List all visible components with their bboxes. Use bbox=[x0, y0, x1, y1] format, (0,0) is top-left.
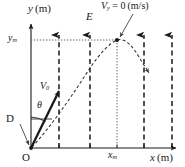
field-arrow-group bbox=[59, 35, 172, 148]
y-max-tick-subscript: m bbox=[12, 36, 16, 43]
angle-label: θ bbox=[37, 100, 42, 110]
initial-velocity-label: V0 bbox=[40, 81, 49, 92]
apex-velocity-label: Vy = 0 (m/s) bbox=[101, 1, 149, 12]
apex-point bbox=[115, 38, 119, 42]
initial-velocity-vector bbox=[31, 91, 59, 148]
initial-velocity-subscript: 0 bbox=[46, 84, 49, 91]
y-max-tick-label: ym bbox=[8, 33, 17, 44]
point-d-label: D bbox=[6, 113, 14, 124]
x-axis-label: x (m) bbox=[150, 152, 173, 163]
x-axis-label-unit: (m) bbox=[157, 151, 173, 163]
origin-label: O bbox=[22, 152, 30, 163]
apex-velocity-value: = 0 bbox=[110, 0, 126, 11]
apex-velocity-unit: (m/s) bbox=[128, 0, 149, 11]
apex-leader-line bbox=[120, 14, 133, 37]
x-max-tick-label: xm bbox=[108, 150, 117, 161]
y-axis-label-unit: (m) bbox=[35, 2, 51, 14]
x-max-tick-subscript: m bbox=[112, 153, 116, 160]
projectile-motion-figure: y (m) x (m) ym xm O E Vy = 0 (m/s) V0 θ … bbox=[0, 0, 185, 167]
point-d-leader-line bbox=[20, 124, 29, 145]
field-label: E bbox=[86, 11, 93, 22]
x-axis bbox=[31, 145, 176, 149]
y-axis-label: y (m) bbox=[28, 3, 51, 14]
figure-canvas bbox=[0, 0, 185, 167]
